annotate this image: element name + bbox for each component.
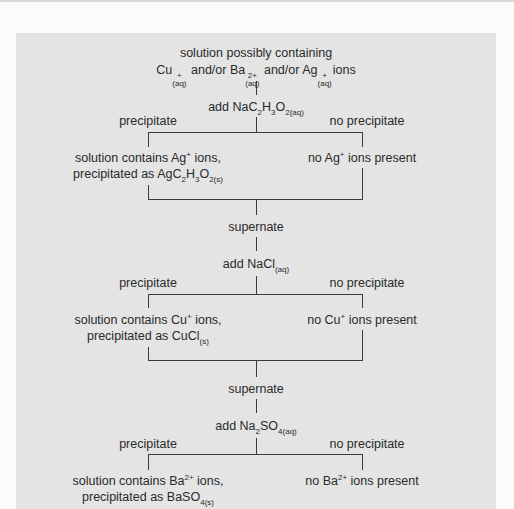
step3-left-result-line1: solution contains Ba2+ ions, <box>73 473 224 489</box>
connector <box>148 454 149 470</box>
step2-supernate: supernate <box>228 381 284 397</box>
step1-reagent: add NaC2H3O2(aq) <box>208 99 304 115</box>
step2-split-bracket <box>148 294 363 295</box>
step2-right-result: no Cu+ ions present <box>307 312 417 328</box>
step3-branch-left-label: precipitate <box>119 436 177 452</box>
step3-reagent: add Na2SO4(aq) <box>215 418 297 434</box>
ag-ion: Ag+(aq) <box>302 63 333 77</box>
connector <box>256 237 257 251</box>
connector <box>256 399 257 413</box>
step1-branch-left-label: precipitate <box>119 113 177 129</box>
connector <box>256 360 257 377</box>
step2-left-result-line1: solution contains Cu+ ions, <box>74 312 221 328</box>
step1-left-result-line1: solution contains Ag+ ions, <box>75 150 221 166</box>
connector <box>256 199 257 215</box>
start-line1: solution possibly containing <box>180 45 332 61</box>
connector <box>362 454 363 470</box>
step1-split-bracket <box>148 132 363 133</box>
connector <box>148 294 149 308</box>
step1-supernate: supernate <box>228 219 284 235</box>
connector <box>148 132 149 147</box>
connector <box>362 294 363 308</box>
connector <box>256 81 257 95</box>
connector <box>148 185 149 199</box>
cu-ion: Cu+(aq) <box>156 63 187 77</box>
connector <box>256 438 257 454</box>
step3-branch-right-label: no precipitate <box>329 436 404 452</box>
connector <box>362 330 363 361</box>
connector <box>362 132 363 147</box>
step2-branch-right-label: no precipitate <box>329 275 404 291</box>
step3-right-result: no Ba2+ ions present <box>305 473 418 489</box>
connector <box>256 117 257 132</box>
step1-branch-right-label: no precipitate <box>329 113 404 129</box>
step2-left-result-line2: precipitated as CuCl(s) <box>87 328 209 344</box>
step1-right-result: no Ag+ ions present <box>308 150 416 166</box>
ba-ion: Ba2+(aq) <box>230 63 261 77</box>
step3-left-result-line2: precipitated as BaSO4(s) <box>82 489 214 505</box>
step3-split-bracket <box>148 454 363 455</box>
connector <box>148 347 149 361</box>
step1-left-result-line2: precipitated as AgC2H3O2(s) <box>73 166 223 182</box>
top-rule <box>0 0 514 2</box>
step2-branch-left-label: precipitate <box>119 275 177 291</box>
connector <box>362 168 363 199</box>
step2-reagent: add NaCl(aq) <box>223 256 289 272</box>
connector <box>256 276 257 294</box>
